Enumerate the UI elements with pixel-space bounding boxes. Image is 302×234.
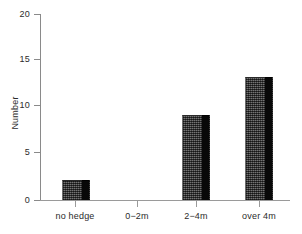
bar-side-panel <box>202 115 209 200</box>
y-tick-mark <box>34 14 40 15</box>
y-axis-title: Number <box>10 83 20 143</box>
x-tick-label-2-4m: 2−4m <box>164 211 228 221</box>
x-tick-mark <box>75 201 76 207</box>
bar-over-4m <box>245 78 272 200</box>
y-tick-label: 5 <box>0 147 30 157</box>
x-tick-mark <box>137 201 138 207</box>
x-tick-label-over-4m: over 4m <box>222 211 296 221</box>
y-tick-label: 15 <box>0 54 30 64</box>
bar-no-hedge <box>62 181 89 200</box>
x-tick-label-no-hedge: no hedge <box>38 211 112 221</box>
y-axis-line <box>40 14 41 201</box>
y-tick-mark <box>34 200 40 201</box>
x-tick-mark <box>196 201 197 207</box>
y-tick-mark <box>34 152 40 153</box>
y-tick-label: 0 <box>0 195 30 205</box>
y-tick-label: 10 <box>0 100 30 110</box>
y-tick-mark <box>34 105 40 106</box>
bar-side-panel <box>82 180 89 200</box>
bar-side-panel <box>265 77 272 200</box>
bar-chart: Number 20 15 10 5 0 no hedge 0−2m 2−4m o… <box>0 0 302 234</box>
x-axis-line <box>40 200 290 201</box>
x-tick-mark <box>259 201 260 207</box>
y-tick-label: 20 <box>0 9 30 19</box>
x-tick-label-0-2m: 0−2m <box>105 211 169 221</box>
y-tick-mark <box>34 59 40 60</box>
bar-2-4m <box>182 116 209 200</box>
